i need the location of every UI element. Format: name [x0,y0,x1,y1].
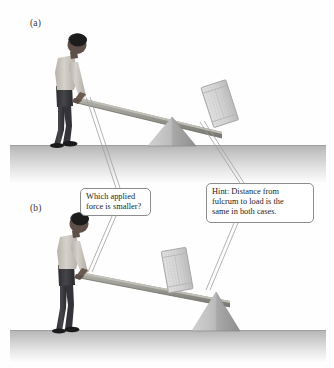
panel-b-person [52,212,89,333]
callout-hint-line-1: Hint: Distance from [212,187,309,197]
callout-force-line-2: force is smaller? [86,202,146,212]
panel-b-crate [161,247,193,293]
panel-b-label: (b) [30,203,42,213]
callout-force-line-1: Which applied [86,192,146,202]
panel-b-plank [80,272,230,307]
callout-hint-line-3: same in both cases. [212,207,309,217]
panel-a-label: (a) [30,18,41,28]
panel-a-art [10,33,326,188]
panel-b-leader-hint [206,223,238,290]
panel-a-ground [10,145,326,183]
callout-hint-line-2: fulcrum to load is the [212,197,309,207]
panel-b-art [10,212,326,362]
callout-force-question: Which applied force is smaller? [80,188,151,216]
callout-hint: Hint: Distance from fulcrum to load is t… [206,183,314,223]
figure-container: (a) (b) Which applied force is smaller? … [0,0,334,368]
panel-b-leader-force [88,216,116,272]
panel-a-plank [77,97,222,138]
panel-b-ground [10,330,326,362]
panel-a-person [50,33,87,148]
panel-a-crate [201,80,239,128]
